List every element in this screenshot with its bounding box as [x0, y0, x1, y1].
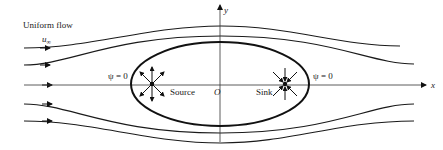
psi-zero-right-label: ψ = 0: [313, 71, 333, 81]
streamline-lower-outer: [24, 121, 414, 143]
streamline-lower-inner: [24, 104, 414, 133]
sink-icon: [273, 68, 297, 100]
y-axis-label: y: [223, 5, 228, 15]
streamline-upper-inner: [24, 36, 414, 65]
psi-zero-left-label: ψ = 0: [108, 71, 128, 81]
origin-label: O: [214, 87, 221, 97]
streamline-upper-outer: [24, 26, 400, 48]
uniform-flow-label: Uniform flow: [23, 20, 73, 30]
freestream-velocity-label: u∞: [42, 34, 52, 45]
sink-label: Sink: [256, 87, 273, 97]
source-label: Source: [170, 87, 195, 97]
source-icon: [140, 67, 164, 101]
rankine-oval-diagram: Uniform flow u∞ y x O Source Sink ψ = 0 …: [0, 0, 443, 150]
x-axis-label: x: [430, 80, 435, 90]
